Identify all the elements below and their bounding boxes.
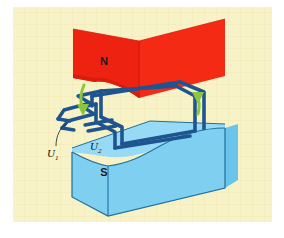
u1-subscript: 1 bbox=[55, 154, 59, 162]
figure-container: N bbox=[0, 0, 284, 238]
south-pole-right-face bbox=[225, 124, 238, 188]
lead-terminal-upper bbox=[58, 119, 70, 121]
north-pole-label: N bbox=[100, 55, 108, 67]
lead-terminal-lower bbox=[62, 128, 74, 130]
south-pole-label: S bbox=[100, 166, 107, 178]
magnet-coil-diagram: N bbox=[0, 0, 284, 238]
u2-subscript: 2 bbox=[98, 147, 102, 155]
